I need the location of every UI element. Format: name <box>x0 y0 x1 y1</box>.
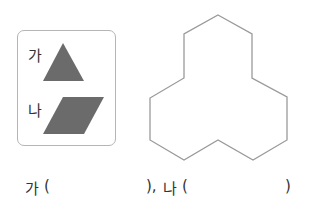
answer-a-label: 가 <box>25 177 39 198</box>
parallelogram-piece <box>43 97 104 134</box>
answer-a-open: ( <box>44 177 50 195</box>
target-figure <box>150 15 287 160</box>
triangle-piece <box>43 43 84 81</box>
answer-b-close: ) <box>285 177 291 195</box>
answer-b-open: ( <box>182 177 188 195</box>
answer-b-label: 나 <box>163 177 177 198</box>
answer-a-close: ), <box>146 177 157 195</box>
